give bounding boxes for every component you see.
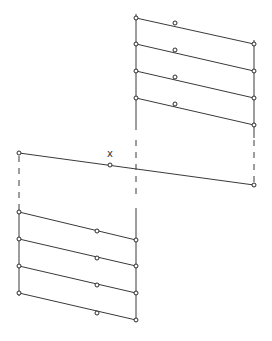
node-x: [108, 163, 112, 167]
node: [173, 102, 177, 106]
node: [95, 229, 99, 233]
top-block: [134, 16, 256, 127]
node: [252, 123, 256, 127]
node: [134, 96, 138, 100]
label-x: x: [107, 148, 113, 159]
node: [252, 96, 256, 100]
node: [134, 238, 138, 242]
node: [173, 75, 177, 79]
node: [134, 42, 138, 46]
node: [17, 210, 21, 214]
linkage-diagram: x: [0, 0, 272, 341]
bottom-block: [17, 210, 138, 322]
node: [17, 291, 21, 295]
node: [252, 183, 256, 187]
node: [17, 151, 21, 155]
node: [134, 69, 138, 73]
node: [134, 264, 138, 268]
node: [95, 283, 99, 287]
node: [173, 48, 177, 52]
node: [95, 311, 99, 315]
node: [134, 318, 138, 322]
node: [17, 237, 21, 241]
node: [252, 69, 256, 73]
node: [95, 256, 99, 260]
node: [134, 16, 138, 20]
node: [173, 21, 177, 25]
node: [17, 264, 21, 268]
node: [134, 291, 138, 295]
node: [252, 42, 256, 46]
